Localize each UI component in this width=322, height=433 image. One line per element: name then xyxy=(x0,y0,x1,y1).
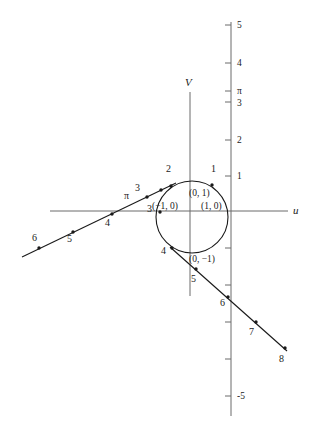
point-label-4-left: 4 xyxy=(105,217,110,228)
scale-label-1: 1 xyxy=(237,171,242,181)
marker-point-1 xyxy=(210,183,213,186)
marker-point-5-lower xyxy=(194,267,197,270)
marker-point-6-lower xyxy=(226,295,229,298)
point-label-8: 8 xyxy=(279,353,284,364)
marker-point-4-lower xyxy=(170,246,173,249)
v-axis-label: V xyxy=(185,76,193,88)
coord-label-neg1-0: (−1, 0) xyxy=(152,201,178,212)
scale-label-2: 2 xyxy=(237,135,242,145)
marker-point-2 xyxy=(169,184,172,187)
scale-label-3: 3 xyxy=(237,98,242,108)
marker-point-6-left xyxy=(37,246,40,249)
scale-label-pi: π xyxy=(237,86,242,96)
marker-point-3-upper xyxy=(159,188,162,191)
point-label-5-lower: 5 xyxy=(191,273,196,284)
coord-label-0-neg1: (0, −1) xyxy=(189,254,215,265)
marker-point-4-left xyxy=(110,212,113,215)
marker-point-7 xyxy=(254,320,257,323)
marker-point-pi xyxy=(145,195,148,198)
point-label-5-left: 5 xyxy=(67,233,72,244)
point-label-pi: π xyxy=(124,190,129,201)
point-label-6-left: 6 xyxy=(32,232,37,243)
point-label-6-lower: 6 xyxy=(220,297,225,308)
upper-ray-segment xyxy=(22,183,176,257)
point-label-3-upper: 3 xyxy=(135,182,140,193)
figure-container: 5 4 π 3 2 1 -5 V u xyxy=(0,0,322,433)
point-label-4-lower: 4 xyxy=(161,245,166,256)
scale-label-5: 5 xyxy=(237,20,242,30)
scale-label-neg5: -5 xyxy=(237,391,245,401)
coord-label-1-0: (1, 0) xyxy=(201,201,222,212)
point-label-2: 2 xyxy=(166,163,171,174)
coord-label-0-1: (0, 1) xyxy=(189,188,210,199)
point-label-7: 7 xyxy=(249,326,254,337)
point-label-1: 1 xyxy=(211,163,216,174)
marker-point-8 xyxy=(283,346,286,349)
complex-map-plot: 5 4 π 3 2 1 -5 V u xyxy=(0,0,322,433)
scale-label-4: 4 xyxy=(237,58,242,68)
u-axis-label: u xyxy=(293,204,299,216)
lower-ray-segment xyxy=(170,247,287,351)
